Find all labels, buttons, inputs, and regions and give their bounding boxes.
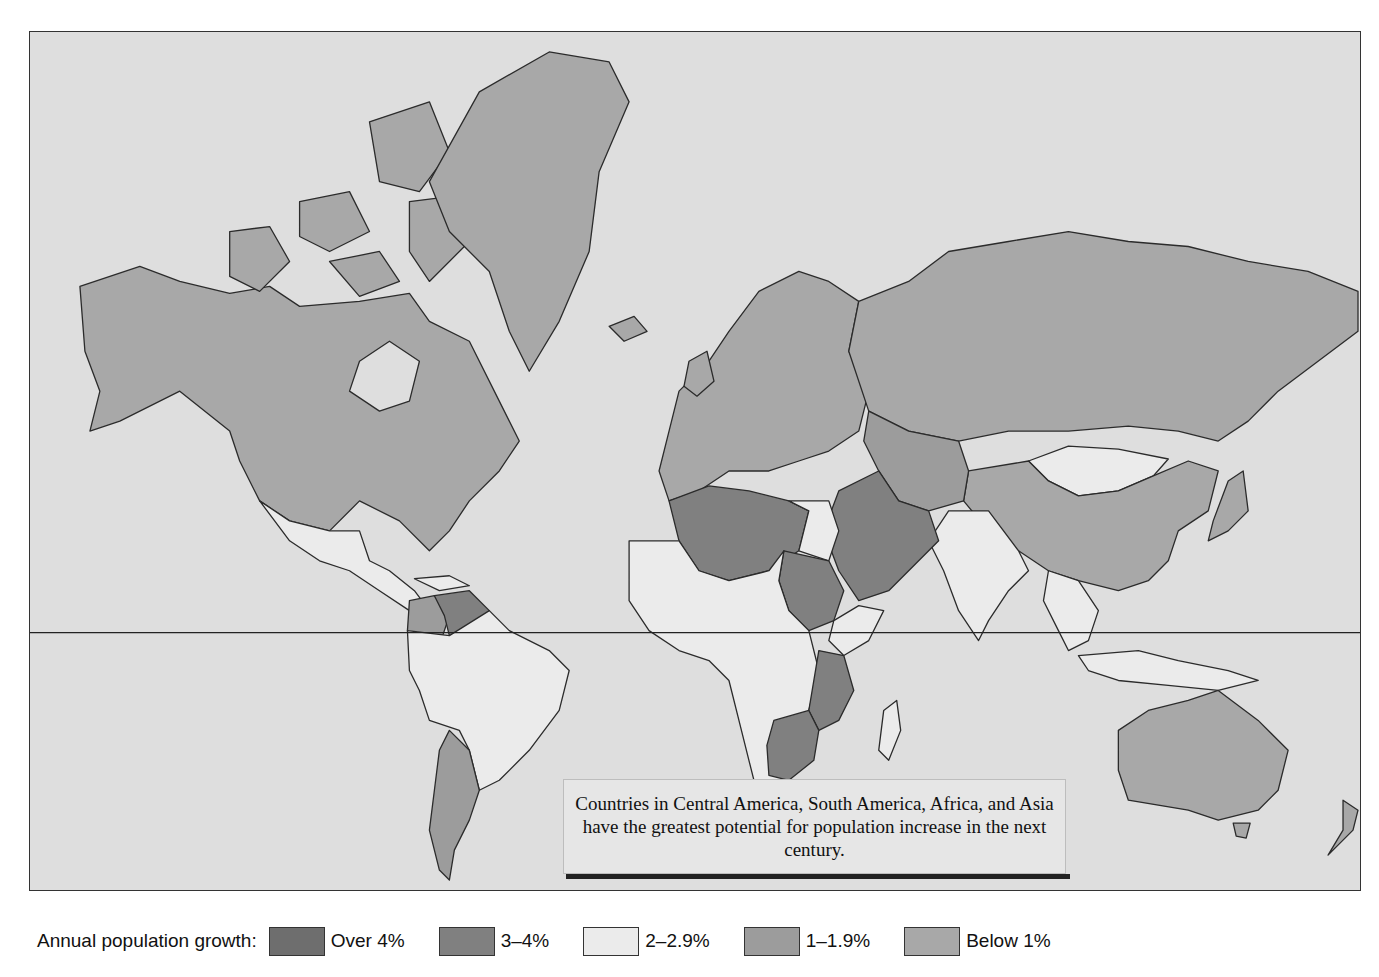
world-map bbox=[29, 31, 1361, 891]
region-canadian-arctic[interactable] bbox=[230, 102, 470, 297]
legend-swatch bbox=[583, 927, 639, 956]
legend-label: 3–4% bbox=[501, 930, 550, 952]
legend-swatch bbox=[269, 927, 325, 956]
legend-item-1-1-9: 1–1.9% bbox=[744, 927, 904, 956]
region-iceland[interactable] bbox=[609, 316, 647, 341]
region-tasmania[interactable] bbox=[1233, 823, 1250, 838]
legend-label: Over 4% bbox=[331, 930, 405, 952]
region-greenland[interactable] bbox=[429, 52, 629, 371]
legend-swatch bbox=[744, 927, 800, 956]
region-madagascar[interactable] bbox=[879, 700, 901, 760]
legend-label: 2–2.9% bbox=[645, 930, 709, 952]
region-russia[interactable] bbox=[849, 232, 1358, 442]
region-caribbean[interactable] bbox=[414, 576, 469, 591]
region-brazil-peru[interactable] bbox=[407, 611, 569, 791]
region-new-zealand[interactable] bbox=[1328, 800, 1358, 855]
legend-item-over-4: Over 4% bbox=[269, 927, 439, 956]
region-horn-of-africa[interactable] bbox=[829, 606, 884, 656]
legend-item-2-2-9: 2–2.9% bbox=[583, 927, 743, 956]
legend-swatch bbox=[904, 927, 960, 956]
region-australia[interactable] bbox=[1118, 690, 1288, 820]
callout-box: Countries in Central America, South Amer… bbox=[563, 779, 1066, 874]
callout-text: Countries in Central America, South Amer… bbox=[575, 793, 1054, 860]
region-north-america[interactable] bbox=[80, 266, 519, 550]
legend-swatch bbox=[439, 927, 495, 956]
legend-item-below-1: Below 1% bbox=[904, 927, 1085, 956]
map-svg bbox=[30, 32, 1360, 890]
callout-shadow bbox=[566, 874, 1070, 879]
region-indonesia[interactable] bbox=[1078, 651, 1258, 691]
legend: Annual population growth: Over 4% 3–4% 2… bbox=[37, 925, 1085, 957]
region-southern-africa[interactable] bbox=[767, 710, 819, 780]
legend-label: Below 1% bbox=[966, 930, 1051, 952]
legend-label: 1–1.9% bbox=[806, 930, 870, 952]
legend-title: Annual population growth: bbox=[37, 930, 257, 952]
legend-item-3-4: 3–4% bbox=[439, 927, 584, 956]
